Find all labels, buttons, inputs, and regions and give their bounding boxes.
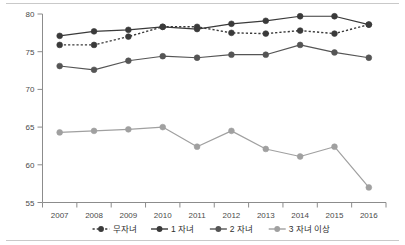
- data-point: [57, 33, 63, 39]
- x-tick-label: 2007: [51, 211, 69, 220]
- data-point: [57, 42, 63, 48]
- legend-label: 1 자녀: [171, 224, 194, 234]
- data-point: [91, 28, 97, 34]
- x-tick-label: 2012: [223, 211, 241, 220]
- data-point: [229, 30, 235, 36]
- y-tick-label: 70: [26, 85, 35, 94]
- data-point: [366, 22, 372, 28]
- y-tick-label: 80: [26, 10, 35, 19]
- y-tick-label: 65: [26, 123, 35, 132]
- data-point: [57, 63, 63, 69]
- x-tick-label: 2014: [291, 211, 309, 220]
- x-tick-label: 2009: [119, 211, 137, 220]
- y-axis-ticks: 556065707580: [26, 10, 43, 208]
- data-point: [91, 42, 97, 48]
- legend-item-4[interactable]: 3 자녀 이상: [269, 224, 330, 234]
- legend-label: 2 자녀: [230, 224, 253, 234]
- data-point: [194, 55, 200, 61]
- series-line: [60, 25, 369, 45]
- data-point: [125, 58, 131, 64]
- data-point: [229, 128, 235, 134]
- data-point: [125, 27, 131, 33]
- x-axis-ticks: 2007200820092010201120122013201420152016: [43, 203, 387, 220]
- series-4: [57, 124, 372, 190]
- legend-marker-dot: [157, 226, 163, 232]
- data-point: [366, 185, 372, 191]
- legend-marker-dot: [215, 226, 221, 232]
- data-point: [229, 21, 235, 27]
- data-point: [194, 26, 200, 32]
- data-point: [91, 67, 97, 73]
- data-point: [297, 13, 303, 19]
- y-tick-label: 75: [26, 48, 35, 57]
- x-tick-label: 2010: [154, 211, 172, 220]
- x-tick-label: 2011: [188, 211, 206, 220]
- y-tick-label: 55: [26, 199, 35, 208]
- legend-item-2[interactable]: 1 자녀: [151, 224, 194, 234]
- x-tick-label: 2013: [257, 211, 275, 220]
- data-point: [332, 144, 338, 150]
- x-tick-label: 2015: [326, 211, 344, 220]
- data-point: [263, 18, 269, 24]
- legend-item-1[interactable]: 무자녀: [93, 224, 137, 234]
- data-point: [125, 34, 131, 40]
- data-point: [297, 28, 303, 34]
- data-point: [263, 52, 269, 58]
- data-point: [160, 124, 166, 130]
- data-point: [91, 128, 97, 134]
- y-tick-label: 60: [26, 161, 35, 170]
- data-point: [297, 154, 303, 160]
- data-series-layer: [57, 13, 372, 190]
- legend-marker-dot: [274, 226, 280, 232]
- data-point: [332, 50, 338, 56]
- data-point: [332, 31, 338, 37]
- data-point: [263, 31, 269, 37]
- x-tick-label: 2016: [360, 211, 378, 220]
- data-point: [125, 126, 131, 132]
- data-point: [160, 24, 166, 30]
- series-line: [60, 45, 369, 70]
- legend-label: 무자녀: [113, 224, 137, 234]
- data-point: [194, 144, 200, 150]
- legend-marker-dot: [98, 226, 104, 232]
- line-chart-figure: 556065707580 200720082009201020112012201…: [0, 0, 405, 245]
- data-point: [332, 13, 338, 19]
- chart-plot-area: 556065707580 200720082009201020112012201…: [0, 0, 405, 245]
- data-point: [297, 42, 303, 48]
- chart-legend: 무자녀1 자녀2 자녀3 자녀 이상: [93, 224, 331, 234]
- data-point: [160, 53, 166, 59]
- series-3: [57, 42, 372, 73]
- legend-label: 3 자녀 이상: [289, 224, 330, 234]
- data-point: [366, 55, 372, 61]
- series-2: [57, 13, 372, 38]
- data-point: [263, 146, 269, 152]
- legend-item-3[interactable]: 2 자녀: [210, 224, 253, 234]
- data-point: [57, 129, 63, 135]
- series-1: [57, 22, 372, 48]
- x-tick-label: 2008: [85, 211, 103, 220]
- series-line: [60, 127, 369, 187]
- data-point: [229, 52, 235, 58]
